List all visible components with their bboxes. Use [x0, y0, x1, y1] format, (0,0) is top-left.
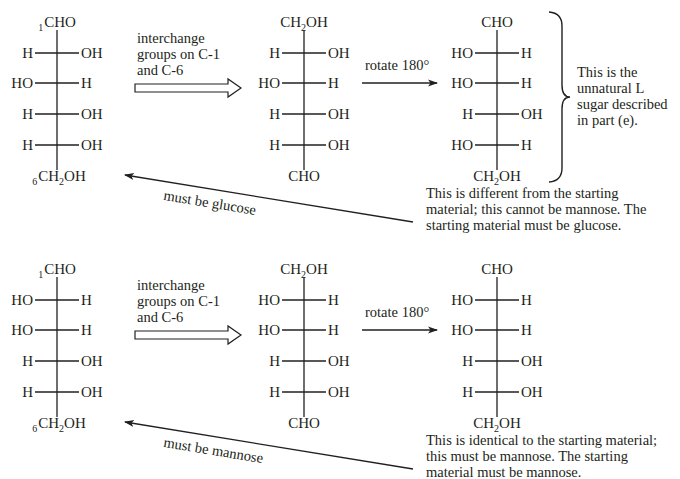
substituent-left: H [269, 384, 280, 400]
substituent-right: OH [81, 353, 103, 369]
brace-note: sugar described [577, 96, 668, 112]
group-text: OH [64, 415, 86, 431]
substituent-right: OH [328, 45, 350, 61]
conclusion-text: starting material must be glucose. [426, 217, 621, 233]
group-text: CH [473, 415, 494, 431]
rotate-label: rotate 180° [365, 57, 429, 73]
substituent-right: OH [81, 384, 103, 400]
rotated-structure-top-group: CHO [481, 261, 513, 277]
rotated-structure-bottom-group: CH2OH [473, 168, 521, 186]
substituent-right: H [521, 75, 532, 91]
substituent-left: H [269, 106, 280, 122]
hollow-arrow-icon [135, 326, 241, 344]
substituent-left: H [269, 353, 280, 369]
substituent-left: HO [11, 322, 33, 338]
substituent-left: HO [11, 292, 33, 308]
group-text: CHO [44, 14, 76, 30]
group-text: OH [64, 168, 86, 184]
substituent-right: H [81, 322, 92, 338]
interchange-label: and C-6 [137, 309, 183, 325]
group-text: CHO [288, 415, 320, 431]
substituent-left: HO [451, 137, 473, 153]
substituent-right: H [521, 137, 532, 153]
group-text: CHO [481, 261, 513, 277]
substituent-right: H [521, 322, 532, 338]
substituent-right: OH [521, 353, 543, 369]
substituent-left: HO [451, 75, 473, 91]
conclusion-text: this must be mannose. The starting [426, 448, 628, 464]
substituent-right: OH [521, 106, 543, 122]
substituent-right: OH [328, 384, 350, 400]
carbon-number: 1 [38, 269, 43, 280]
group-text: OH [499, 415, 521, 431]
substituent-left: HO [258, 292, 280, 308]
brace-note: unnatural L [577, 80, 644, 96]
substituent-left: HO [451, 45, 473, 61]
interchanged-structure-top-group: CH2OH [280, 14, 328, 32]
substituent-left: H [22, 384, 33, 400]
substituent-left: HO [258, 322, 280, 338]
brace-note: in part (e). [577, 112, 638, 128]
group-text: OH [306, 261, 328, 277]
group-text: CHO [288, 168, 320, 184]
subscript: 2 [59, 176, 64, 187]
conclusion-text: material must be mannose. [426, 464, 581, 479]
substituent-left: HO [11, 75, 33, 91]
conclusion-text: This is different from the starting [426, 185, 619, 201]
substituent-left: H [22, 106, 33, 122]
substituent-right: OH [328, 353, 350, 369]
group-text: CHO [44, 261, 76, 277]
carbon-number: 1 [38, 22, 43, 33]
group-text: CH [38, 415, 59, 431]
carbon-number: 6 [32, 176, 37, 187]
starting-structure-top-group: 1CHO [38, 14, 76, 32]
substituent-right: OH [328, 106, 350, 122]
substituent-right: OH [328, 137, 350, 153]
substituent-right: H [328, 75, 339, 91]
substituent-right: OH [81, 106, 103, 122]
interchange-label: groups on C-1 [137, 46, 220, 62]
substituent-left: H [22, 45, 33, 61]
substituent-right: H [328, 292, 339, 308]
subscript: 2 [301, 269, 306, 280]
substituent-left: H [462, 106, 473, 122]
substituent-right: H [81, 75, 92, 91]
subscript: 2 [59, 423, 64, 434]
starting-structure-bottom-group: 6CH2OH [32, 168, 86, 186]
substituent-left: H [22, 137, 33, 153]
group-text: CH [473, 168, 494, 184]
substituent-right: H [81, 292, 92, 308]
interchanged-structure-bottom-group: CHO [288, 168, 320, 184]
substituent-right: OH [81, 137, 103, 153]
interchanged-structure-top-group: CH2OH [280, 261, 328, 279]
substituent-left: H [462, 384, 473, 400]
interchange-label: interchange [137, 30, 205, 46]
rotated-structure-bottom-group: CH2OH [473, 415, 521, 433]
starting-structure-top-group: 1CHO [38, 261, 76, 279]
rotated-structure-top-group: CHO [481, 14, 513, 30]
substituent-left: H [269, 45, 280, 61]
interchange-label: groups on C-1 [137, 293, 220, 309]
starting-structure-bottom-group: 6CH2OH [32, 415, 86, 433]
interchange-label: interchange [137, 277, 205, 293]
conclusion-text: material; this cannot be mannose. The [426, 201, 646, 217]
subscript: 2 [301, 22, 306, 33]
substituent-left: HO [258, 75, 280, 91]
substituent-right: OH [81, 45, 103, 61]
rotate-label: rotate 180° [365, 304, 429, 320]
substituent-left: HO [451, 322, 473, 338]
carbon-number: 6 [32, 423, 37, 434]
hollow-arrow-icon [135, 79, 241, 97]
interchange-label: and C-6 [137, 62, 183, 78]
substituent-right: H [521, 45, 532, 61]
group-text: CH [280, 14, 301, 30]
substituent-right: H [328, 322, 339, 338]
substituent-left: H [269, 137, 280, 153]
conclusion-text: This is identical to the starting materi… [426, 432, 657, 448]
curly-brace-icon [549, 12, 570, 182]
group-text: CH [280, 261, 301, 277]
brace-note: This is the [577, 64, 637, 80]
substituent-left: HO [451, 292, 473, 308]
group-text: CHO [481, 14, 513, 30]
substituent-left: H [22, 353, 33, 369]
